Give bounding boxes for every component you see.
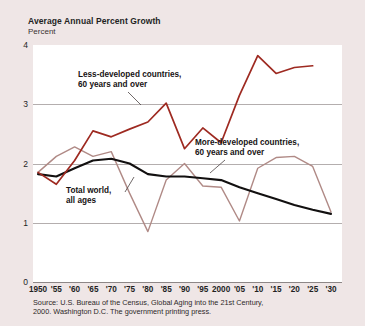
annotation-total-world-line2: all ages: [66, 196, 96, 205]
annotation-less-developed-line2: 60 years and over: [78, 80, 147, 89]
x-axis-tick-55: '55: [51, 285, 62, 294]
x-axis-tick-95: '95: [197, 285, 208, 294]
x-axis-tick-labels: 1950'55'60'65'70'75'80'85'90'952000'05'1…: [33, 285, 342, 297]
leader-more-developed: [210, 160, 225, 173]
y-axis-tick-1: 1: [18, 218, 28, 228]
y-axis-tick-4: 4: [18, 40, 28, 50]
source-note: Source: U.S. Bureau of the Census, Globa…: [33, 298, 343, 317]
x-axis-tick-10: '10: [252, 285, 263, 294]
x-axis-tick-2000: 2000: [212, 285, 230, 294]
annotation-more-developed: More-developed countries, 60 years and o…: [195, 138, 299, 158]
x-axis-tick-75: '75: [124, 285, 135, 294]
x-axis-tick-60: '60: [69, 285, 80, 294]
y-axis-tick-0: 0: [18, 277, 28, 287]
x-axis-tick-30: '30: [325, 285, 336, 294]
annotation-total-world-line1: Total world,: [66, 186, 111, 195]
x-axis-tick-20: '20: [289, 285, 300, 294]
source-note-line1: Source: U.S. Bureau of the Census, Globa…: [33, 298, 343, 307]
x-axis-tick-70: '70: [106, 285, 117, 294]
x-axis-tick-05: '05: [234, 285, 245, 294]
x-axis-tick-90: '90: [179, 285, 190, 294]
annotation-more-developed-line2: 60 years and over: [195, 148, 264, 157]
annotation-less-developed-line1: Less-developed countries,: [78, 70, 181, 79]
chart-title: Average Annual Percent Growth: [28, 16, 161, 26]
leader-less-developed: [128, 92, 141, 105]
y-axis-tick-3: 3: [18, 99, 28, 109]
plot-area: Less-developed countries, 60 years and o…: [33, 45, 342, 283]
x-axis-tick-85: '85: [161, 285, 172, 294]
x-axis-tick-65: '65: [87, 285, 98, 294]
x-axis-tick-1950: 1950: [29, 285, 47, 294]
annotation-less-developed: Less-developed countries, 60 years and o…: [78, 70, 181, 90]
source-note-line2: 2000. Washington D.C. The government pri…: [33, 307, 343, 316]
annotation-total-world: Total world, all ages: [66, 186, 111, 206]
annotation-more-developed-line1: More-developed countries,: [195, 138, 299, 147]
x-axis-tick-15: '15: [271, 285, 282, 294]
x-axis-tick-80: '80: [142, 285, 153, 294]
chart-axis-unit-label: Percent: [28, 27, 56, 36]
chart-figure: Average Annual Percent Growth Percent 4 …: [0, 0, 365, 326]
y-axis-tick-2: 2: [18, 159, 28, 169]
x-axis-tick-25: '25: [307, 285, 318, 294]
